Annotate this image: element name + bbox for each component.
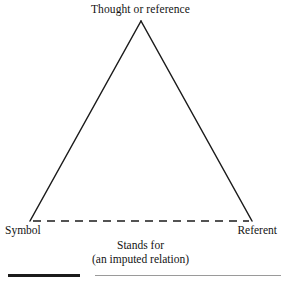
caption-line-stands-for: Stands for <box>0 239 281 253</box>
base-relation-caption: Stands for (an imputed relation) <box>0 239 281 266</box>
bottom-rule-thin <box>95 275 281 276</box>
vertex-label-symbol: Symbol <box>5 224 41 237</box>
vertex-label-referent: Referent <box>237 224 277 237</box>
semiotic-triangle-figure: Thought or reference Symbol Referent Sta… <box>0 0 281 283</box>
triangle-side-thought-to-referent <box>141 21 252 221</box>
apex-label-thought-or-reference: Thought or reference <box>0 3 281 16</box>
bottom-rule-thick <box>8 274 80 277</box>
caption-line-imputed-relation: (an imputed relation) <box>0 253 281 267</box>
triangle-side-symbol-to-thought <box>30 21 141 221</box>
